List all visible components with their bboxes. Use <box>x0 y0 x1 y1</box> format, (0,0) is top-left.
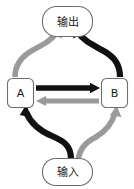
node-a[interactable]: A <box>8 79 34 108</box>
node-input[interactable]: 输入 <box>43 159 93 186</box>
edge-b-to-a <box>36 96 99 106</box>
edge-input-to-b <box>78 106 122 161</box>
diagram-graphic: 输出 A B 输入 <box>0 0 134 189</box>
diagram-canvas: 输出 A B 输入 <box>0 0 134 189</box>
node-output-label: 输出 <box>57 15 79 29</box>
node-output[interactable]: 输出 <box>43 7 93 37</box>
edge-input-to-a <box>20 105 71 160</box>
edge-a-to-b <box>36 83 100 93</box>
node-b[interactable]: B <box>102 79 128 108</box>
node-b-label: B <box>111 87 119 100</box>
node-input-label: 输入 <box>57 165 79 179</box>
node-a-label: A <box>17 87 25 100</box>
